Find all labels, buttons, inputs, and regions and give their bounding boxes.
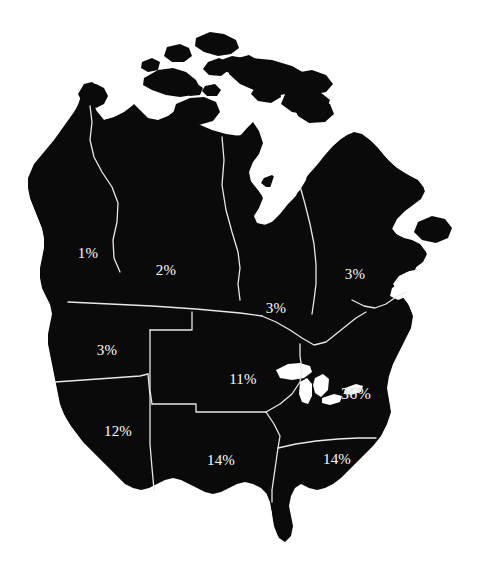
map-figure: 1% 2% 3% 3% 3% 12% 11% 36% 14% 14% [0,0,488,578]
north-america-map-graphic [0,0,488,578]
